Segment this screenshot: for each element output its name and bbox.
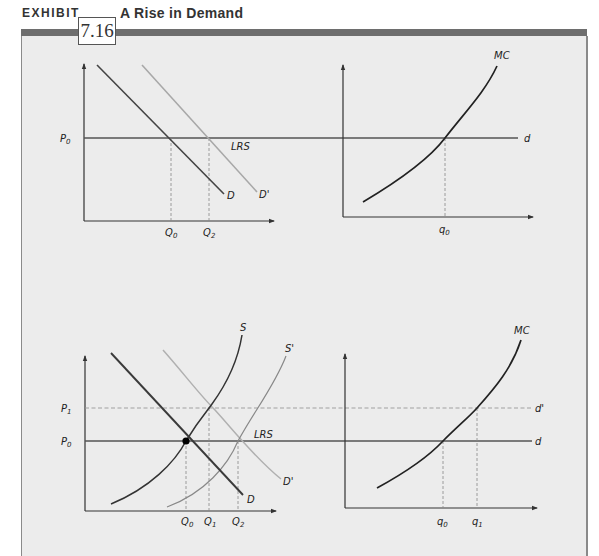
s-prime-label: S' bbox=[285, 343, 294, 354]
equilibrium-point bbox=[182, 437, 189, 444]
q2-label: Q2 bbox=[203, 227, 216, 240]
demand-curve-d bbox=[111, 353, 243, 495]
bottom-right-firm-graph: MC d' d q0 q1 bbox=[345, 325, 544, 529]
q0-label: q0 bbox=[439, 224, 450, 237]
d-label: d bbox=[524, 133, 531, 144]
d-label: d bbox=[535, 436, 542, 447]
top-left-industry-graph: P0 LRS D D' Q0 Q2 bbox=[60, 64, 518, 240]
mc-curve bbox=[377, 340, 521, 488]
q0-label: Q0 bbox=[181, 516, 194, 529]
q1-label: q1 bbox=[472, 516, 483, 529]
q0-label: q0 bbox=[437, 516, 448, 529]
q0-label: Q0 bbox=[165, 227, 178, 240]
s-label: S bbox=[240, 322, 247, 333]
q2-label: Q2 bbox=[232, 516, 245, 529]
demand-curve-d-prime bbox=[163, 350, 281, 479]
bottom-left-industry-graph: P1 P0 S S' LRS D' D Q0 Q1 Q2 bbox=[61, 322, 532, 529]
d-prime-label: d' bbox=[535, 403, 544, 414]
diagram-canvas: P0 LRS D D' Q0 Q2 MC d q0 P1 bbox=[0, 0, 599, 556]
d-label: D bbox=[247, 494, 255, 505]
lrs-label: LRS bbox=[254, 429, 274, 440]
p0-label: P0 bbox=[61, 436, 72, 449]
d-prime-label: D' bbox=[283, 476, 293, 487]
d-prime-label: D' bbox=[259, 189, 269, 200]
supply-curve-s bbox=[111, 335, 242, 504]
p0-label: P0 bbox=[60, 133, 71, 146]
top-right-firm-graph: MC d q0 bbox=[343, 50, 533, 237]
mc-label: MC bbox=[514, 325, 530, 336]
d-label: D bbox=[227, 190, 235, 201]
q1-label: Q1 bbox=[204, 516, 216, 529]
lrs-label: LRS bbox=[231, 141, 251, 152]
mc-label: MC bbox=[494, 50, 510, 61]
p1-label: P1 bbox=[61, 403, 72, 416]
mc-curve bbox=[363, 66, 497, 202]
